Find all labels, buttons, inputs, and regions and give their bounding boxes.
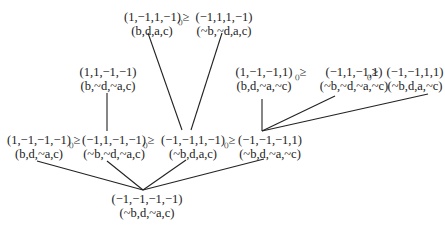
- edge-l4-to-bottom: [143, 159, 264, 190]
- node-vector: (1,−1,−1,−1): [4, 133, 74, 147]
- edge-r3-to-l4: [262, 94, 428, 131]
- node-vector: (1,1,−1,−1): [78, 65, 138, 79]
- relation-r1-r2: ()≥: [295, 65, 307, 84]
- node-vector: (−1,1,−1,−1): [80, 133, 148, 147]
- node-literals: (b,d,a,c): [124, 24, 180, 38]
- node-vector: (1,−1,−1,1): [233, 65, 295, 79]
- node-mid-left: (1,1,−1,−1) (b,~d,~a,c): [78, 65, 138, 93]
- node-l3: (−1,−1,1,−1) (~b,d,a,c): [158, 133, 228, 161]
- node-vector: (1,−1,1,−1): [124, 10, 180, 24]
- node-vector: (−1,−1,1,1): [384, 65, 445, 79]
- node-bottom: (−1,−1,−1,−1) (~b,d,~a,c): [110, 192, 184, 220]
- relation-symbol: ≥: [300, 65, 307, 79]
- node-top-left: (1,−1,1,−1) (b,d,a,c): [124, 10, 180, 38]
- node-literals: (~b,d,a,~c): [384, 79, 445, 93]
- relation-l2-l3: ()≥: [143, 133, 155, 152]
- edge-l2-to-bottom: [107, 161, 143, 190]
- node-vector: (−1,−1,−1,1): [236, 133, 304, 147]
- relation-symbol: ≥: [229, 133, 236, 147]
- node-literals: (b,d,~a,c): [4, 147, 74, 161]
- node-literals: (~b,d,~a,~c): [236, 147, 304, 161]
- relation-l1-l2: ()≥: [69, 133, 81, 152]
- node-r3: (−1,−1,1,1) (~b,d,a,~c): [384, 65, 445, 93]
- node-l2: (−1,1,−1,−1) (~b,~d,~a,c): [80, 133, 148, 161]
- relation-top: ()≥: [178, 10, 190, 29]
- node-literals: (~b,d,a,c): [158, 147, 228, 161]
- node-literals: (~b,~d,a,c): [193, 24, 255, 38]
- node-literals: (~b,~d,~a,~c): [318, 79, 390, 93]
- edge-top-left-to-l3: [148, 33, 182, 130]
- node-l4: (−1,−1,−1,1) (~b,d,~a,~c): [236, 133, 304, 161]
- edge-top-right-to-l3: [191, 33, 222, 130]
- node-vector: (−1,1,1,−1): [193, 10, 255, 24]
- relation-symbol: ≥: [372, 65, 379, 79]
- node-literals: (~b,~d,~a,c): [80, 147, 148, 161]
- edge-l1-to-bottom: [37, 161, 143, 190]
- node-vector: (−1,1,−1,1): [318, 65, 390, 79]
- relation-l3-l4: ()≥: [224, 133, 236, 152]
- node-top-right: (−1,1,1,−1) (~b,~d,a,c): [193, 10, 255, 38]
- relation-symbol: ≥: [148, 133, 155, 147]
- edge-r2-to-l4: [262, 96, 335, 131]
- node-r2: (−1,1,−1,1) (~b,~d,~a,~c): [318, 65, 390, 93]
- node-l1: (1,−1,−1,−1) (b,d,~a,c): [4, 133, 74, 161]
- lattice-diagram: (1,−1,1,−1) (b,d,a,c) ()≥ (−1,1,1,−1) (~…: [0, 0, 445, 229]
- node-vector: (−1,−1,−1,−1): [110, 192, 184, 206]
- node-literals: (b,~d,~a,c): [78, 79, 138, 93]
- edge-l3-to-bottom: [143, 160, 186, 190]
- node-literals: (~b,d,~a,c): [110, 206, 184, 220]
- relation-symbol: ≥: [183, 10, 190, 24]
- node-r1: (1,−1,−1,1) (b,d,~a,~c): [233, 65, 295, 93]
- relation-r2-r3: ()≥: [367, 65, 379, 84]
- node-literals: (b,d,~a,~c): [233, 79, 295, 93]
- node-vector: (−1,−1,1,−1): [158, 133, 228, 147]
